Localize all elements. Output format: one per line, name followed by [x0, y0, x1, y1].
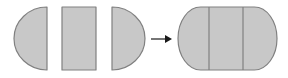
result-stadium — [178, 7, 277, 70]
piece-rectangle — [62, 7, 96, 70]
shape-composition-diagram — [0, 0, 288, 78]
diagram-canvas — [0, 0, 288, 78]
result-stadium-group — [178, 7, 277, 70]
